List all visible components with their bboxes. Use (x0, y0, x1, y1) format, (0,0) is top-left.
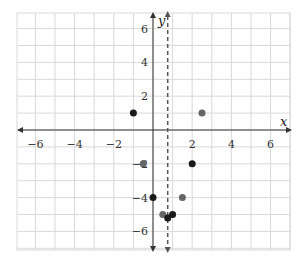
svg-text:−6: −6 (27, 138, 43, 151)
data-point (140, 160, 147, 167)
svg-text:−4: −4 (66, 138, 82, 151)
scatter-chart: −6−4−2246642−2−4−6 x y (0, 0, 303, 268)
svg-text:4: 4 (141, 56, 148, 69)
data-point (179, 194, 186, 201)
data-point (150, 194, 157, 201)
grid-lines (17, 13, 290, 250)
data-point (189, 160, 196, 167)
svg-text:2: 2 (189, 138, 196, 151)
y-axis-label: y (157, 13, 166, 28)
svg-text:6: 6 (267, 138, 274, 151)
svg-text:−4: −4 (132, 192, 148, 205)
svg-text:2: 2 (141, 90, 148, 103)
svg-text:6: 6 (141, 23, 148, 36)
x-axis-label: x (280, 114, 288, 129)
data-point (169, 211, 176, 218)
data-point (199, 110, 206, 117)
svg-text:−6: −6 (132, 225, 148, 238)
data-point (130, 110, 137, 117)
svg-text:4: 4 (228, 138, 235, 151)
svg-text:−2: −2 (106, 138, 122, 151)
